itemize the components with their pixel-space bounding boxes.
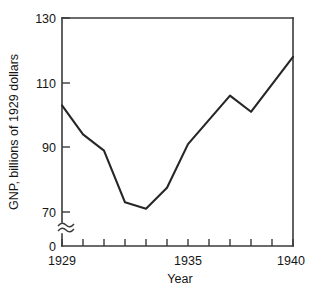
x-tick-label-1935: 1935 — [174, 254, 202, 268]
gnp-line-chart-figure: 130 110 90 70 0 1929 1935 1940 Year GNP,… — [0, 0, 316, 293]
x-tick-marks — [62, 239, 293, 246]
y-tick-label-90: 90 — [42, 141, 56, 155]
x-tick-label-1929: 1929 — [48, 254, 76, 268]
gnp-data-line — [62, 57, 293, 209]
y-axis-break-icon — [58, 223, 74, 232]
chart-canvas: 130 110 90 70 0 1929 1935 1940 Year GNP,… — [0, 0, 316, 293]
x-axis-title: Year — [167, 272, 192, 286]
x-tick-label-1940: 1940 — [277, 254, 305, 268]
axis-frame — [62, 18, 293, 246]
y-tick-label-110: 110 — [36, 77, 56, 91]
y-tick-label-70: 70 — [42, 206, 56, 220]
y-tick-label-130: 130 — [35, 12, 56, 26]
y-tick-label-0: 0 — [49, 240, 56, 254]
y-axis-title: GNP, billions of 1929 dollars — [7, 54, 21, 210]
